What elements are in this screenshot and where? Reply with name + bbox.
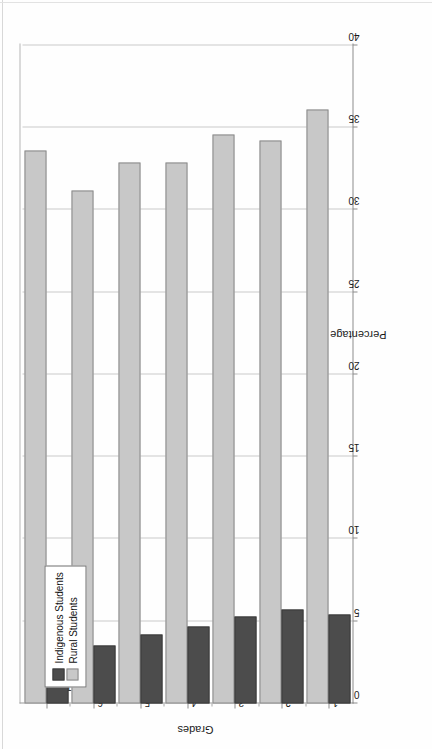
value-tick-label: 30 [348,195,359,206]
bar-rural [165,162,187,703]
category-band-tick [305,703,306,706]
bar-indigenous [187,626,209,703]
scanned-page: 0510152025303540 123456Total Percentage … [0,0,432,749]
value-tick-label: 35 [348,112,359,123]
plot-top-spine [19,43,20,703]
category-tick [46,703,47,708]
value-tick-label: 40 [348,30,359,41]
bar-rural [24,150,46,703]
value-tick-label: 15 [348,441,359,452]
category-axis-title: Grades [177,723,213,735]
value-axis-title: Percentage [330,328,386,340]
bar-indigenous [234,616,256,703]
legend-swatch-indigenous-icon [52,668,64,680]
value-tick [352,209,357,210]
legend-swatch-rural-icon [66,668,78,680]
chart-legend: Indigenous Students Rural Students [44,565,86,687]
value-tick [352,373,357,374]
legend-label-indigenous: Indigenous Students [53,572,64,663]
value-tick [352,620,357,621]
gridline [22,126,352,127]
category-band-tick [258,703,259,706]
bar-indigenous [93,645,115,703]
category-tick [187,703,188,708]
category-band-tick [211,703,212,706]
bar-rural [306,109,328,703]
bar-rural [259,140,281,703]
value-tick-label: 25 [348,277,359,288]
category-tick [234,703,235,708]
legend-label-rural: Rural Students [67,597,78,663]
bar-indigenous [328,614,350,703]
bar-indigenous [140,634,162,703]
category-band-tick [116,703,117,706]
gridline [22,44,352,45]
value-tick [352,538,357,539]
bar-chart: 0510152025303540 123456Total Percentage … [0,0,432,749]
legend-item-indigenous: Indigenous Students [52,572,64,680]
value-tick-label: 20 [348,359,359,370]
category-tick [140,703,141,708]
value-tick [352,291,357,292]
bar-rural [118,162,140,703]
value-tick-label: 0 [353,688,359,699]
value-tick [352,702,357,703]
bar-rural [212,134,234,703]
category-tick [93,703,94,708]
value-tick [352,455,357,456]
value-tick [352,126,357,127]
value-tick-label: 5 [353,606,359,617]
rotated-figure: 0510152025303540 123456Total Percentage … [0,0,432,749]
category-band-tick [69,703,70,706]
bar-indigenous [281,609,303,703]
value-tick-label: 10 [348,524,359,535]
value-tick [352,44,357,45]
category-band-tick [163,703,164,706]
category-tick [328,703,329,708]
legend-item-rural: Rural Students [66,572,78,680]
category-tick [281,703,282,708]
